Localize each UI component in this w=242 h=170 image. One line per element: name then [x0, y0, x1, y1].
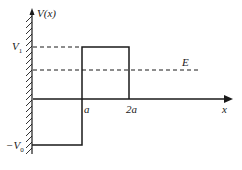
tick-label-2a: 2a [126, 103, 138, 115]
v0-label: −V0 [6, 139, 24, 154]
y-axis-arrow-icon [30, 8, 35, 15]
x-axis-label: x [221, 103, 227, 115]
x-axis-arrow-icon [224, 95, 233, 103]
wall-hatching [26, 16, 32, 154]
energy-label: E [181, 56, 189, 68]
tick-label-a: a [84, 103, 90, 115]
y-axis-label: V(x) [37, 7, 56, 20]
v1-label: V1 [12, 40, 23, 55]
potential-curve [32, 47, 129, 145]
potential-diagram: V(x) V1 E a 2a x −V0 [0, 0, 242, 170]
